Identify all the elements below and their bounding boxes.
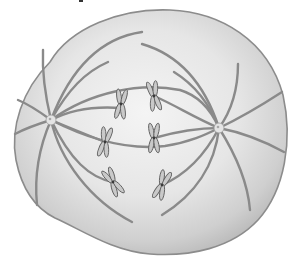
centrosome-right <box>214 123 224 133</box>
mitosis-diagram <box>0 0 293 260</box>
cropped-text-fragment <box>79 0 83 2</box>
centrosome-left <box>46 115 56 125</box>
